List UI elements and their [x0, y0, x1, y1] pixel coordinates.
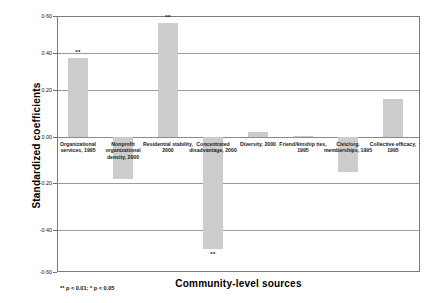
- x-category-label-6: Civic/org. memberships, 1995: [323, 141, 373, 154]
- bar-concentrated-disadvantage: [203, 137, 223, 249]
- significance-marker-0: **: [68, 49, 88, 55]
- x-category-label-0: Organizational services, 1995: [53, 141, 103, 154]
- bar-chart: 0.60 0.40 0.20 0.00 -0.20 -0.40 -0.60 St…: [0, 0, 433, 303]
- gridline--0.40: [58, 230, 419, 231]
- x-category-label-4: Diversity, 2000: [233, 141, 283, 147]
- x-category-label-2: Residential stability, 2000: [143, 141, 193, 154]
- bar-organizational-services: [68, 58, 88, 137]
- y-tick-mark-6: [53, 272, 57, 273]
- bar-diversity: [248, 132, 268, 137]
- significance-marker-3: **: [203, 251, 223, 257]
- bar-residential-stability: [158, 23, 178, 137]
- gridline-0.20: [58, 90, 419, 91]
- chart-footnote: ** p < 0.01; * p < 0.05: [60, 285, 114, 291]
- bar-friend-kinship-ties: [293, 136, 313, 137]
- x-category-label-1: Nonprofit organizational density, 2000: [98, 141, 148, 160]
- y-axis-title: Standardized coefficients: [31, 21, 42, 271]
- x-category-label-5: Friend/kinship ties, 1995: [278, 141, 328, 154]
- x-category-label-3: Concentrated disadvantage, 2000: [188, 141, 238, 154]
- plot-area: ** ** ** Organizational services, 1995 N…: [57, 16, 420, 272]
- significance-marker-2: **: [158, 14, 178, 20]
- gridline--0.20: [58, 183, 419, 184]
- gridline-0.40: [58, 53, 419, 54]
- x-category-label-7: Collective efficacy, 1995: [368, 141, 418, 154]
- y-axis-title-wrap: Standardized coefficients: [8, 10, 32, 266]
- bar-collective-efficacy: [383, 99, 403, 137]
